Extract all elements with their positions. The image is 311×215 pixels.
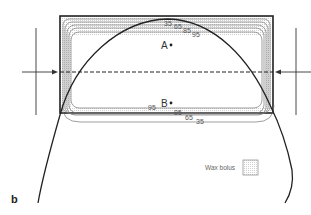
svg-text:A: A [161,40,168,51]
right-arrow-icon [275,70,311,75]
svg-text:Wax bolus: Wax bolus [205,164,236,171]
svg-text:85: 85 [183,27,191,34]
panel-label: b [11,193,18,205]
legend-wax-bolus: Wax bolus [205,160,258,175]
dose-distribution-diagram: 35 65 85 95 95 85 65 35 A B Wax bolus b [0,0,311,215]
wax-bolus-swatch [243,160,258,175]
svg-text:85: 85 [174,109,182,116]
svg-text:95: 95 [192,31,200,38]
svg-text:B: B [161,98,168,109]
svg-text:35: 35 [164,20,172,27]
svg-text:65: 65 [174,23,182,30]
svg-text:65: 65 [185,114,193,121]
left-arrow-icon [22,70,58,75]
svg-text:35: 35 [196,118,204,125]
svg-text:95: 95 [148,104,156,111]
